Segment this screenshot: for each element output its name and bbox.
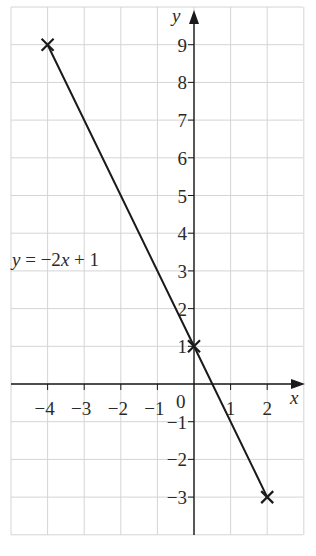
x-axis-label: x [289,387,299,408]
y-tick-label: 4 [178,223,188,244]
y-axis-arrow-icon [189,10,199,24]
y-tick-label: 9 [178,35,188,56]
y-tick-label: 1 [178,336,188,357]
x-tick-label: −3 [71,398,91,419]
y-tick-label: −1 [167,412,187,433]
x-tick-label: −4 [34,398,55,419]
x-tick-label: 2 [262,398,272,419]
x-tick-label: −1 [144,398,164,419]
y-tick-label: 7 [178,110,188,131]
y-tick-label: 8 [178,72,188,93]
y-tick-label: 3 [178,261,188,282]
y-tick-label: 6 [178,148,188,169]
x-tick-label: −2 [108,398,128,419]
line-chart: −4−3−2−112987654321−1−2−3 y = −2x + 1 x … [0,0,316,556]
y-tick-label: −2 [167,449,187,470]
equation-label: y = −2x + 1 [10,249,99,270]
y-axis-label: y [170,5,181,26]
y-tick-label: −3 [167,487,187,508]
origin-label: 0 [176,391,186,412]
y-tick-label: 5 [178,186,188,207]
